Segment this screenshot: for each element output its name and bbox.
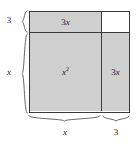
figure-canvas: 3x x2 3x 3 x x 3 bbox=[0, 0, 137, 144]
region-right-strip-label: 3x bbox=[102, 68, 129, 77]
dimension-label-left-bottom: x bbox=[2, 68, 16, 77]
dimension-label-left-top: 3 bbox=[2, 16, 16, 25]
region-top-strip: 3x bbox=[30, 12, 102, 33]
brace-left-top-icon bbox=[17, 10, 28, 33]
region-main-square-label: x2 bbox=[30, 68, 101, 77]
region-corner-square bbox=[102, 12, 129, 33]
brace-left-bottom-icon bbox=[17, 33, 28, 114]
area-model-box: 3x x2 3x bbox=[29, 11, 130, 113]
brace-bottom-right-icon bbox=[102, 115, 131, 126]
region-main-square: x2 bbox=[30, 33, 102, 111]
dimension-label-bottom-right: 3 bbox=[106, 128, 126, 137]
region-right-strip: 3x bbox=[102, 33, 129, 111]
brace-bottom-left-icon bbox=[28, 115, 102, 126]
region-top-strip-label: 3x bbox=[30, 18, 101, 27]
dimension-label-bottom-left: x bbox=[48, 128, 82, 137]
